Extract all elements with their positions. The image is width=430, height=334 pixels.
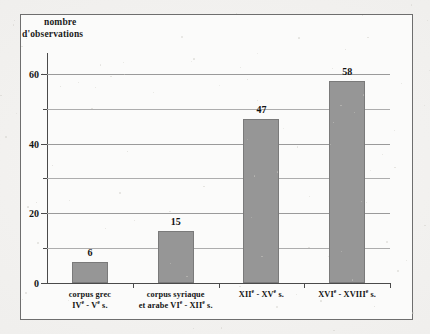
scan-speck bbox=[119, 192, 120, 193]
scan-speck bbox=[366, 202, 367, 203]
scan-speck bbox=[42, 73, 43, 74]
scan-speck bbox=[170, 263, 171, 264]
scan-speck bbox=[5, 136, 7, 138]
scan-speck bbox=[52, 165, 53, 166]
scan-speck bbox=[352, 279, 354, 281]
scan-speck bbox=[27, 206, 28, 207]
scan-speck bbox=[239, 286, 240, 287]
scan-speck bbox=[60, 86, 61, 87]
scan-speck bbox=[36, 202, 37, 203]
y-axis-label-40: 40 bbox=[17, 138, 39, 149]
scan-speck bbox=[181, 36, 183, 38]
scan-speck bbox=[412, 312, 414, 314]
y-axis-title: nombre d'observations bbox=[22, 16, 142, 40]
scan-speck bbox=[193, 328, 194, 329]
scan-speck bbox=[374, 306, 375, 307]
scan-speck bbox=[0, 95, 2, 97]
x-tick bbox=[219, 283, 220, 288]
scan-speck bbox=[26, 38, 27, 39]
y-tick-60 bbox=[41, 74, 47, 75]
bar-value-label: 6 bbox=[87, 247, 92, 258]
x-axis-category-label: XVIe - XVIIIe s. bbox=[297, 289, 397, 300]
scan-speck bbox=[298, 37, 300, 39]
y-axis-label-0: 0 bbox=[17, 278, 39, 289]
scan-speck bbox=[193, 58, 195, 60]
scan-speck bbox=[333, 330, 334, 331]
y-tick-10 bbox=[43, 248, 47, 249]
scan-speck bbox=[16, 113, 17, 114]
scan-speck bbox=[247, 139, 248, 140]
scan-speck bbox=[370, 170, 371, 171]
plot-area bbox=[47, 53, 390, 283]
y-tick-50 bbox=[43, 109, 47, 110]
y-tick-0 bbox=[41, 283, 47, 284]
scan-speck bbox=[127, 151, 128, 152]
scan-speck bbox=[219, 85, 220, 86]
scan-speck bbox=[363, 94, 364, 95]
scan-speck bbox=[354, 112, 355, 113]
scan-speck bbox=[333, 122, 334, 123]
y-tick-20 bbox=[41, 213, 47, 214]
scan-speck bbox=[88, 298, 89, 299]
scan-speck bbox=[21, 46, 22, 47]
scan-speck bbox=[191, 61, 192, 62]
x-tick bbox=[390, 283, 391, 288]
scan-speck bbox=[110, 76, 111, 77]
scan-speck bbox=[397, 270, 399, 272]
scan-speck bbox=[14, 20, 15, 21]
y-tick-30 bbox=[43, 178, 47, 179]
scan-speck bbox=[351, 79, 352, 80]
y-axis-label-60: 60 bbox=[17, 68, 39, 79]
x-tick bbox=[133, 283, 134, 288]
scan-speck bbox=[340, 105, 342, 107]
bar bbox=[329, 81, 365, 283]
scan-speck bbox=[309, 196, 310, 197]
scan-speck bbox=[37, 242, 39, 244]
scan-speck bbox=[345, 49, 346, 50]
bar-value-label: 58 bbox=[342, 66, 352, 77]
scan-speck bbox=[424, 105, 425, 106]
scan-speck bbox=[257, 53, 258, 54]
scan-speck bbox=[247, 79, 248, 80]
y-tick-40 bbox=[41, 144, 47, 145]
bar-value-label: 15 bbox=[171, 216, 181, 227]
scan-speck bbox=[424, 225, 425, 226]
bar bbox=[72, 262, 108, 283]
scan-speck bbox=[332, 68, 333, 69]
y-axis-label-20: 20 bbox=[17, 208, 39, 219]
y-axis-title-line-1: nombre bbox=[22, 16, 142, 28]
bar-value-label: 47 bbox=[256, 104, 266, 115]
scan-speck bbox=[427, 20, 428, 21]
scan-speck bbox=[100, 64, 101, 65]
bar bbox=[158, 231, 194, 283]
scan-speck bbox=[78, 82, 79, 83]
bar bbox=[243, 119, 279, 283]
scan-speck bbox=[25, 292, 26, 293]
gridline-60 bbox=[47, 74, 390, 75]
scan-speck bbox=[134, 220, 135, 221]
y-axis-title-line-2: d'observations bbox=[22, 28, 142, 40]
x-tick bbox=[304, 283, 305, 288]
scan-speck bbox=[320, 300, 322, 302]
